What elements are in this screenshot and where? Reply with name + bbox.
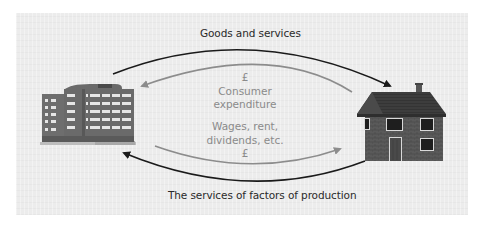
pound-symbol-top: £ xyxy=(175,71,315,85)
consumer-expenditure-label: £ Consumer expenditure xyxy=(175,71,315,112)
factors-of-production-label: The services of factors of production xyxy=(168,189,356,201)
expenditure-line: expenditure xyxy=(175,98,315,112)
goods-and-services-label: Goods and services xyxy=(200,27,301,39)
wages-rent-line: Wages, rent, xyxy=(175,120,315,134)
office-building-icon xyxy=(40,84,136,145)
wages-rent-dividends-label: Wages, rent, dividends, etc. £ xyxy=(175,120,315,161)
consumer-line: Consumer xyxy=(175,85,315,99)
pound-symbol-bottom: £ xyxy=(175,147,315,161)
house-icon xyxy=(357,83,446,161)
dividends-line: dividends, etc. xyxy=(175,134,315,148)
